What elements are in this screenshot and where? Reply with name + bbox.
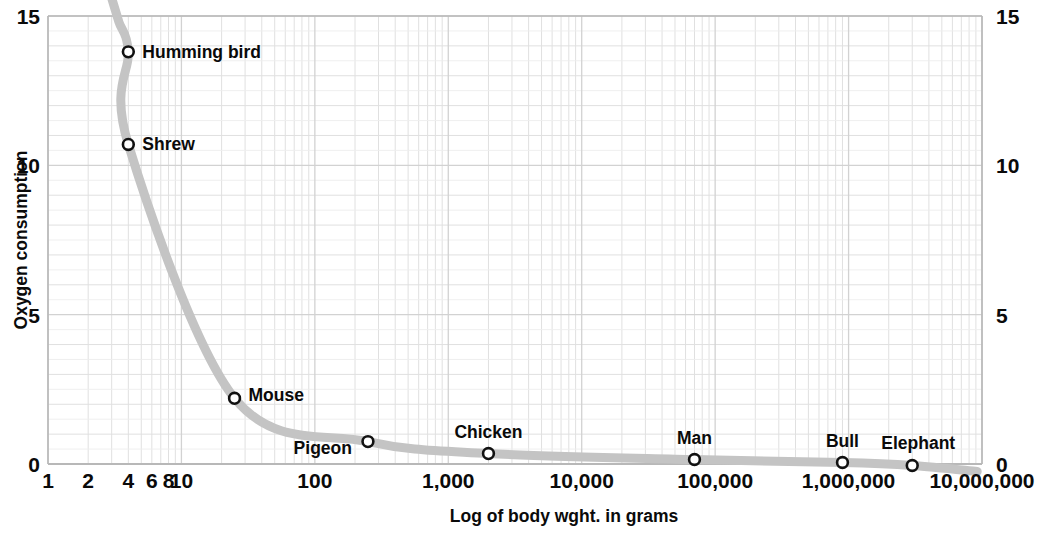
data-point-label: Man xyxy=(677,428,712,448)
x-tick-label: 1 xyxy=(42,469,54,492)
data-point-marker xyxy=(689,454,700,465)
data-point-label: Humming bird xyxy=(142,42,261,62)
data-point-label: Elephant xyxy=(881,433,955,453)
x-tick-label: 6 xyxy=(146,469,158,492)
x-tick-label: 1,000 xyxy=(422,469,475,492)
y-tick-label-right: 0 xyxy=(996,453,1008,476)
y-tick-label-right: 10 xyxy=(996,154,1019,177)
x-tick-label: 10 xyxy=(170,469,193,492)
x-axis-title: Log of body wght. in grams xyxy=(450,506,679,526)
y-axis-title: Oxygen consumption xyxy=(11,151,31,330)
x-tick-label: 100 xyxy=(297,469,332,492)
x-tick-label: 4 xyxy=(122,469,134,492)
y-tick-label-left: 0 xyxy=(28,453,40,476)
x-tick-label: 10,000 xyxy=(550,469,614,492)
y-tick-label-left: 15 xyxy=(17,5,41,28)
chart-figure: Humming birdShrewMousePigeonChickenManBu… xyxy=(0,0,1037,548)
data-point-label: Mouse xyxy=(249,385,305,405)
data-point-label: Shrew xyxy=(142,134,195,154)
data-point-marker xyxy=(123,139,134,150)
data-point-label: Chicken xyxy=(454,422,522,442)
x-tick-label: 10,000,000 xyxy=(929,469,1034,492)
x-tick-label: 2 xyxy=(82,469,94,492)
chart-svg: Humming birdShrewMousePigeonChickenManBu… xyxy=(0,0,1037,548)
data-point-marker xyxy=(229,393,240,404)
data-point-marker xyxy=(837,457,848,468)
data-point-label: Pigeon xyxy=(294,438,352,458)
y-tick-label-right: 5 xyxy=(996,304,1008,327)
data-point-marker xyxy=(123,46,134,57)
data-point-label: Bull xyxy=(826,431,859,451)
x-tick-label: 1,000,000 xyxy=(802,469,895,492)
data-point-marker xyxy=(907,460,918,471)
y-tick-label-right: 15 xyxy=(996,5,1020,28)
x-tick-label: 100,000 xyxy=(677,469,753,492)
data-point-marker xyxy=(363,436,374,447)
data-point-marker xyxy=(483,448,494,459)
